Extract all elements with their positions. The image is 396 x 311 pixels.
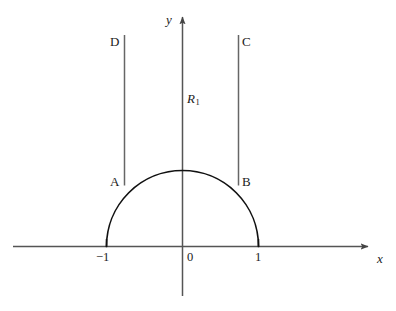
tick-label-origin: 0 — [187, 251, 193, 264]
figure-canvas: y x D C R1 A B −1 0 1 — [0, 0, 396, 311]
region-label-subscript: 1 — [195, 97, 199, 107]
y-axis-label: y — [166, 13, 172, 26]
tick-label-minus-one: −1 — [96, 251, 109, 264]
region-label-letter: R — [187, 91, 195, 106]
tick-label-one: 1 — [255, 251, 261, 264]
point-label-b: B — [242, 175, 251, 188]
x-axis-label: x — [377, 252, 383, 265]
point-label-d: D — [110, 35, 120, 48]
region-label-r1: R1 — [187, 92, 199, 105]
point-label-a: A — [110, 175, 120, 188]
point-label-c: C — [242, 35, 251, 48]
diagram-svg — [0, 0, 396, 311]
